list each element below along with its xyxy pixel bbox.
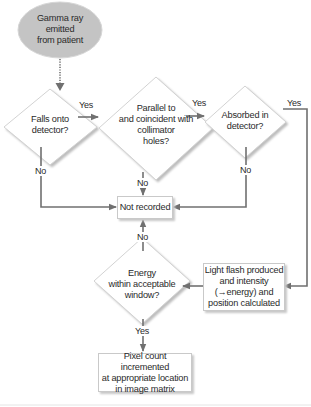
not-recorded-label: Not recorded [120, 202, 171, 213]
decision-energy-label: Energy within acceptable window? [98, 268, 186, 301]
falls-line-1: Falls onto [14, 114, 86, 125]
edge-absorbed-no [173, 147, 246, 207]
edge-label-energy-yes: Yes [135, 326, 149, 336]
process-light-flash: Light flash produced and intensity (→ene… [203, 263, 285, 311]
start-node-label: Gamma ray emitted from patient [24, 13, 96, 46]
absorbed-line-1: Absorbed in [212, 110, 278, 121]
process-not-recorded: Not recorded [117, 196, 173, 219]
parallel-line-2: and coincident with [104, 114, 208, 125]
edge-label-parallel-yes: Yes [192, 98, 206, 108]
light-flash-line-3: (→energy) and [215, 287, 274, 298]
energy-line-3: window? [98, 290, 186, 301]
pixel-count-line-3: in image matrix [115, 384, 174, 395]
falls-line-2: detector? [14, 125, 86, 136]
energy-line-1: Energy [98, 268, 186, 279]
start-line-2: emitted [24, 24, 96, 35]
edge-absorbed-yes [283, 109, 307, 286]
parallel-line-3: collimator [104, 125, 208, 136]
pixel-count-line-1: Pixel count incremented [99, 351, 191, 373]
parallel-line-4: holes? [104, 136, 208, 147]
pixel-count-line-2: at appropriate location [102, 373, 188, 384]
edge-label-falls-yes: Yes [79, 100, 93, 110]
edge-label-energy-no: No [137, 232, 148, 242]
light-flash-line-2: and intensity [220, 276, 269, 287]
edge-label-absorbed-no: No [240, 165, 251, 175]
edge-label parallel-no: No [137, 178, 148, 188]
absorbed-line-2: detector? [212, 121, 278, 132]
light-flash-line-1: Light flash produced [205, 265, 284, 276]
arrowhead-icon [56, 83, 65, 91]
edge-label-falls-no: No [35, 166, 46, 176]
energy-line-2: within acceptable [98, 279, 186, 290]
start-line-1: Gamma ray [24, 13, 96, 24]
decision-falls-label: Falls onto detector? [14, 114, 86, 136]
decision-absorbed-label: Absorbed in detector? [212, 110, 278, 132]
start-line-3: from patient [24, 35, 96, 46]
decision-parallel-label: Parallel to and coincident with collimat… [104, 103, 208, 147]
edge-label-absorbed-yes: Yes [287, 98, 301, 108]
process-pixel-count: Pixel count incremented at appropriate l… [98, 353, 192, 392]
light-flash-line-4: position calculated [208, 298, 280, 309]
